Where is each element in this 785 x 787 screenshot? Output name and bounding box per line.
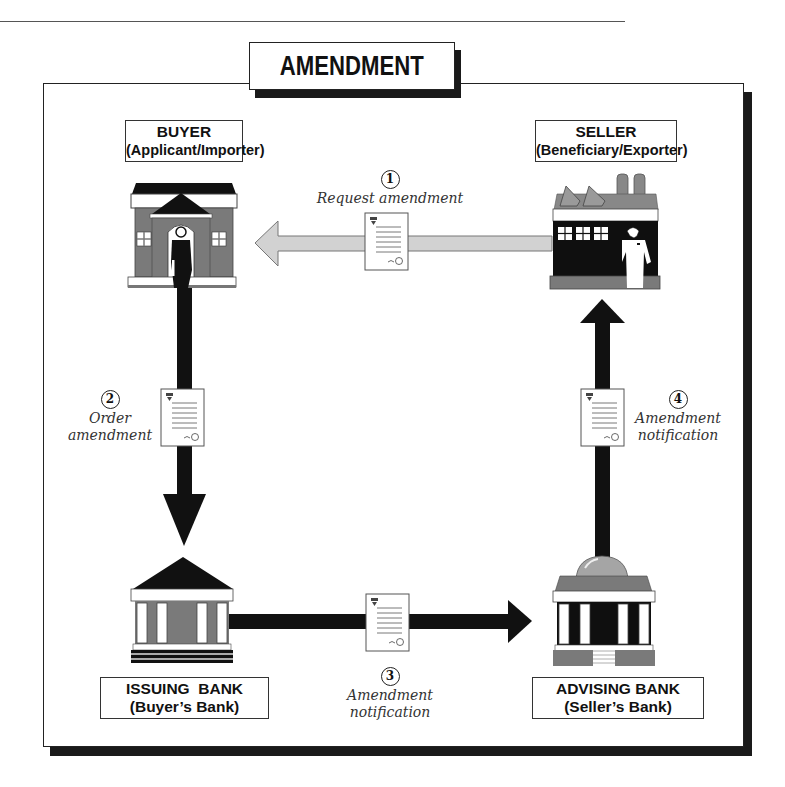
step-4-label: 4 Amendment notification bbox=[622, 390, 734, 444]
document-icon-step-1 bbox=[365, 213, 408, 270]
step-4-number: 4 bbox=[669, 390, 688, 409]
party-buyer: BUYER (Applicant/Importer) bbox=[125, 120, 243, 162]
step-1-number: 1 bbox=[381, 170, 400, 189]
step-2-text-line2: amendment bbox=[68, 427, 152, 443]
issuing-bank-subtitle: (Buyer’s Bank) bbox=[101, 698, 268, 716]
step-3-label: 3 Amendment notification bbox=[330, 667, 450, 721]
buyer-title: BUYER bbox=[126, 123, 242, 141]
bank-pediment-icon bbox=[131, 557, 233, 663]
step-4-text-line2: notification bbox=[638, 427, 719, 443]
seller-title: SELLER bbox=[536, 123, 676, 141]
step-4-text-line1: Amendment bbox=[635, 410, 721, 426]
party-issuing-bank: ISSUING BANK (Buyer’s Bank) bbox=[100, 677, 269, 719]
factory-with-person-icon bbox=[550, 174, 660, 289]
step-3-text-line1: Amendment bbox=[347, 687, 433, 703]
issuing-bank-title: ISSUING BANK bbox=[101, 680, 268, 698]
advising-bank-subtitle: (Seller’s Bank) bbox=[533, 698, 703, 716]
step-2-number: 2 bbox=[101, 390, 120, 409]
step-1-label: 1 Request amendment bbox=[305, 170, 475, 207]
bank-dome-icon bbox=[553, 556, 655, 666]
document-icon-step-4 bbox=[581, 389, 624, 446]
step-2-text-line1: Order bbox=[89, 410, 131, 426]
document-icon-step-2 bbox=[161, 389, 204, 446]
house-with-person-icon bbox=[128, 183, 237, 288]
party-seller: SELLER (Beneficiary/Exporter) bbox=[535, 120, 677, 162]
party-advising-bank: ADVISING BANK (Seller’s Bank) bbox=[532, 677, 704, 719]
advising-bank-title: ADVISING BANK bbox=[533, 680, 703, 698]
seller-subtitle: (Beneficiary/Exporter) bbox=[536, 141, 676, 159]
document-icon-step-3 bbox=[366, 594, 409, 651]
step-3-text-line2: notification bbox=[350, 704, 431, 720]
step-2-label: 2 Order amendment bbox=[60, 390, 160, 444]
step-1-text: Request amendment bbox=[317, 190, 463, 206]
buyer-subtitle: (Applicant/Importer) bbox=[126, 141, 242, 159]
step-3-number: 3 bbox=[381, 667, 400, 686]
